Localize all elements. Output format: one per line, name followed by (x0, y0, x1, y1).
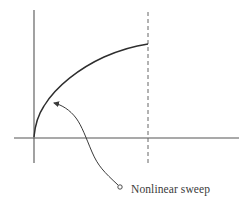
leader-origin-circle (118, 185, 122, 189)
leader-arrow (54, 103, 118, 185)
sweep-diagram (0, 0, 250, 211)
sweep-curve (34, 44, 148, 137)
nonlinear-sweep-label: Nonlinear sweep (131, 183, 210, 195)
